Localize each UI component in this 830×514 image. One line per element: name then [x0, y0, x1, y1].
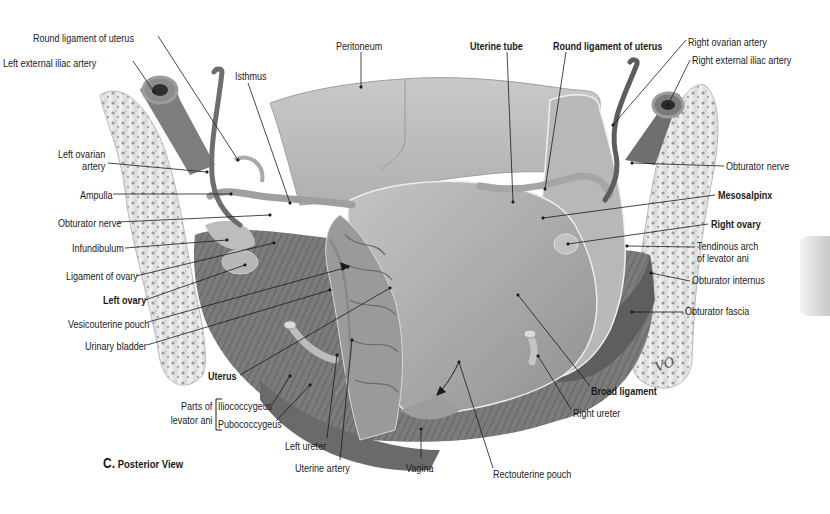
label-pubococcygeus: Pubococcygeus — [218, 418, 282, 430]
label-mesosalpinx: Mesosalpinx — [718, 189, 772, 201]
label-tendinous-arch: Tendinous arch of levator ani — [697, 240, 758, 264]
label-left-external-iliac-artery: Left external iliac artery — [3, 57, 96, 69]
right-ureter — [530, 335, 534, 362]
label-left-ovarian-artery: Left ovarian artery — [58, 148, 105, 172]
left-ovarian-artery — [212, 69, 240, 225]
label-rectouterine-pouch: Rectouterine pouch — [493, 468, 571, 480]
label-obturator-nerve-left: Obturator nerve — [58, 217, 121, 229]
label-uterus: Uterus — [208, 370, 237, 382]
label-uterine-artery: Uterine artery — [295, 462, 350, 474]
label-right-ovarian-artery: Right ovarian artery — [688, 36, 767, 48]
side-tab[interactable] — [800, 236, 830, 316]
label-right-external-iliac-artery: Right external iliac artery — [692, 54, 791, 66]
label-obturator-internus: Obturator internus — [692, 274, 765, 286]
label-obturator-fascia: Obturator fascia — [685, 305, 749, 317]
label-round-ligament-left: Round ligament of uterus — [33, 32, 134, 44]
label-iliococcygeus: Iliococcygeus — [218, 400, 272, 412]
label-obturator-nerve-right: Obturator nerve — [726, 160, 789, 172]
caption-letter: C. — [103, 455, 115, 471]
label-broad-ligament: Broad ligament — [591, 385, 657, 397]
left-ovary — [222, 250, 258, 274]
label-round-ligament-right: Round ligament of uterus — [553, 40, 662, 52]
caption-text: Posterior View — [118, 458, 184, 470]
label-peritoneum: Peritoneum — [336, 40, 382, 52]
label-ampulla: Ampulla — [80, 189, 113, 201]
label-right-ovary: Right ovary — [711, 218, 761, 230]
figure-caption: C. Posterior View — [103, 455, 183, 471]
label-isthmus: Isthmus — [235, 70, 267, 82]
label-left-ureter: Left ureter — [285, 440, 326, 452]
label-left-ovary: Left ovary — [103, 294, 146, 306]
label-vagina: Vagina — [406, 462, 433, 474]
label-ligament-of-ovary: Ligament of ovary — [66, 270, 138, 282]
label-infundibulum: Infundibulum — [72, 242, 124, 254]
label-vesicouterine-pouch: Vesicouterine pouch — [68, 318, 149, 330]
bracket-label-line1: Parts of — [181, 400, 212, 412]
label-urinary-bladder: Urinary bladder — [85, 340, 147, 352]
label-right-ureter: Right ureter — [573, 407, 620, 419]
left-round-ligament — [235, 158, 262, 182]
label-uterine-tube: Uterine tube — [470, 40, 523, 52]
right-ovary — [554, 234, 578, 254]
bracket-label-line2: levator ani — [170, 414, 212, 426]
